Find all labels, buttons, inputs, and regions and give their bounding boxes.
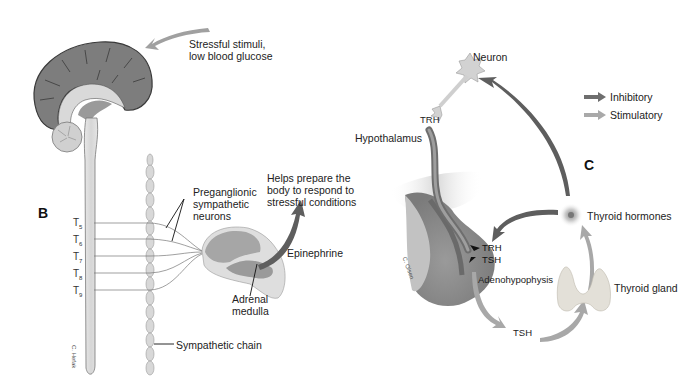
thyroid-hormones-label: Thyroid hormones [587, 210, 672, 222]
thyroid-gland-label: Thyroid gland [614, 282, 678, 294]
panel-letter-c: C [584, 157, 594, 173]
trh-top-label: TRH [420, 114, 440, 126]
neuron-icon [431, 53, 485, 121]
sympathetic-chain-icon [146, 154, 154, 375]
legend-item-stimulatory: Stimulatory [584, 109, 663, 121]
vertebra-label-t7: T7 [73, 251, 82, 264]
spinal-cord-icon [84, 118, 97, 374]
adenohypophysis-label: Adenohypophysis [478, 274, 553, 286]
tsh-inner-label: TSH [482, 254, 501, 266]
vertebra-label-t9: T9 [73, 285, 82, 298]
legend-item-inhibitory: Inhibitory [584, 91, 653, 103]
vertebra-label-t6: T6 [73, 234, 82, 247]
vertebra-label-t8: T8 [73, 268, 82, 281]
tsh-bottom-label: TSH [513, 327, 532, 339]
stimulatory-arrow-icon [584, 110, 606, 120]
trh-inner-label: TRH [482, 242, 502, 254]
stimulus-label: Stressful stimuli, low blood glucose [189, 38, 272, 62]
inhibitory-arrow-pituitary-icon [492, 210, 558, 242]
vertebra-label-t5: T5 [73, 217, 82, 230]
hypothalamus-label: Hypothalamus [355, 132, 422, 144]
stimulatory-arrow-hormones-icon [580, 225, 594, 290]
inhibitory-arrow-neuron-icon [478, 77, 570, 196]
panel-letter-b: B [38, 205, 48, 221]
helps-prepare-label: Helps prepare the body to respond to str… [267, 172, 356, 208]
preganglionic-label: Preganglionic sympathetic neurons [193, 186, 257, 222]
inhibitory-arrow-icon [584, 92, 606, 102]
epinephrine-label: Epinephrine [287, 247, 343, 259]
sympathetic-chain-label: Sympathetic chain [176, 339, 262, 351]
adrenal-medulla-label: Adrenal medulla [232, 293, 269, 317]
artist-signature-b: C. Hefak [68, 345, 80, 368]
neuron-label: Neuron [473, 51, 507, 63]
